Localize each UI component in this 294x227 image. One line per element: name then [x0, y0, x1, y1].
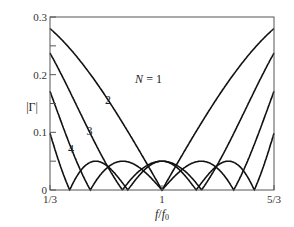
series-line-n3 [50, 91, 274, 190]
y-tick-label: 0.2 [33, 69, 47, 81]
plot-frame [50, 17, 274, 190]
x-tick-label: 5/3 [267, 193, 282, 205]
series-line-n4 [50, 133, 274, 190]
x-axis-label: f/f0 [155, 207, 169, 222]
y-tick-label: 0.1 [33, 126, 47, 138]
axes: 00.10.20.31/315/3 [33, 11, 281, 205]
series-label: N = 1 [134, 72, 162, 86]
chart: N = 1234 00.10.20.31/315/3 f/f0 |Γ| [0, 0, 294, 227]
plot-area: N = 1234 [50, 29, 274, 191]
y-axis-label: |Γ| [26, 100, 38, 114]
series-line-n1 [50, 29, 274, 191]
x-tick-label: 1 [159, 193, 165, 205]
series-label: 4 [68, 142, 74, 156]
x-tick-label: 1/3 [43, 193, 58, 205]
series-line-n2 [50, 53, 274, 190]
series-label: 2 [105, 93, 111, 107]
series-label: 3 [86, 124, 92, 138]
y-tick-label: 0.3 [33, 11, 47, 23]
